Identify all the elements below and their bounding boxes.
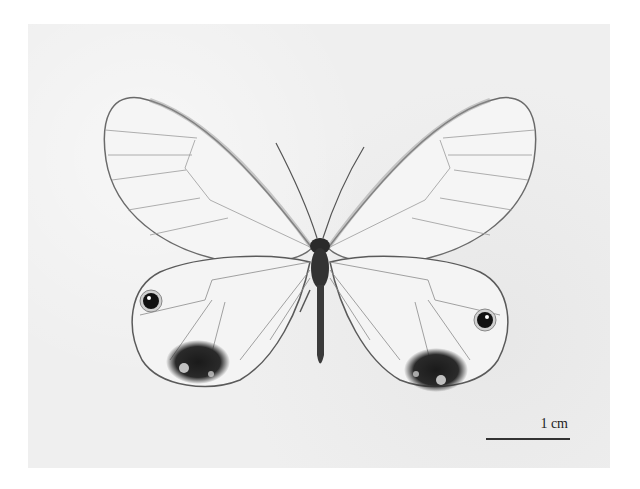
- butterfly-body: [300, 238, 330, 364]
- right-forewing: [328, 98, 536, 264]
- left-hindwing: [132, 256, 310, 386]
- left-forewing: [104, 98, 312, 264]
- scale-bar-label: 1 cm: [540, 416, 568, 432]
- scale-bar: 1 cm: [486, 416, 570, 446]
- scale-bar-line: [486, 438, 570, 440]
- right-hindwing: [330, 256, 508, 392]
- specimen-photo: 1 cm: [28, 24, 610, 468]
- butterfly-illustration: [28, 24, 610, 468]
